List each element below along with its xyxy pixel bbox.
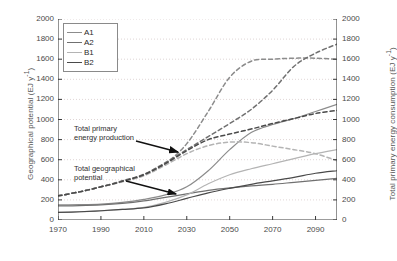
y-axis-left-tick-label: 200 (24, 195, 54, 204)
y-axis-right-tick-label: 400 (342, 175, 372, 184)
legend[interactable]: A1A2B1B2 (63, 23, 118, 72)
legend-label-a1: A1 (84, 29, 94, 37)
y-axis-left-tick-label: 0 (24, 215, 54, 224)
legend-label-b1: B1 (84, 49, 94, 57)
annotation-total-primary-energy-production: Total primary energy production (74, 124, 134, 142)
x-axis-tick-label: 2050 (213, 225, 247, 234)
legend-item-a1[interactable]: A1 (67, 28, 113, 37)
legend-swatch-b1 (67, 52, 82, 53)
y-axis-right-tick-label: 1800 (342, 34, 372, 43)
y-axis-right-tick-label: 1200 (342, 94, 372, 103)
series-line-a2-geographical-potential (58, 178, 337, 206)
y-axis-left-tick-label: 1600 (24, 54, 54, 63)
y-axis-left-tick-label: 800 (24, 135, 54, 144)
y-axis-left-tick-label: 1800 (24, 34, 54, 43)
x-axis-tick-label: 1970 (41, 225, 75, 234)
y-axis-right-exponent: -1 (385, 50, 392, 56)
y-axis-right-tick-label: 1400 (342, 74, 372, 83)
x-axis-tick-label: 2010 (127, 225, 161, 234)
y-axis-left-tick-label: 600 (24, 155, 54, 164)
legend-swatch-a1 (67, 32, 82, 33)
y-axis-left-tick-label: 1200 (24, 94, 54, 103)
y-axis-left-tick-label: 2000 (24, 14, 54, 23)
y-axis-right-tick-label: 1000 (342, 115, 372, 124)
legend-item-b2[interactable]: B2 (67, 58, 113, 67)
legend-swatch-b2 (67, 62, 82, 63)
y-axis-right-tick-label: 200 (342, 195, 372, 204)
x-axis-tick-label: 1990 (84, 225, 118, 234)
legend-label-b2: B2 (84, 59, 94, 67)
arrow-total-geographical-potential (126, 181, 176, 194)
legend-item-a2[interactable]: A2 (67, 38, 113, 47)
y-axis-title-right: Total primary energy consumption (EJ y-1… (385, 29, 397, 219)
x-axis-tick-label: 2030 (170, 225, 204, 234)
x-axis-tick-label: 2070 (256, 225, 290, 234)
arrow-total-primary-energy-production (136, 141, 178, 152)
legend-swatch-a2 (67, 42, 82, 43)
y-axis-right-tick-label: 0 (342, 215, 372, 224)
y-axis-left-tick-label: 1400 (24, 74, 54, 83)
y-axis-right-tick-label: 2000 (342, 14, 372, 23)
legend-item-b1[interactable]: B1 (67, 48, 113, 57)
y-axis-right-tick-label: 1600 (342, 54, 372, 63)
x-axis-tick-label: 2090 (299, 225, 333, 234)
annotation-total-geographical-potential: Total geographical potential (74, 164, 135, 182)
y-axis-left-tick-label: 400 (24, 175, 54, 184)
cropped-caption-strip (0, 0, 396, 8)
y-axis-left-tick-label: 1000 (24, 115, 54, 124)
legend-label-a2: A2 (84, 39, 94, 47)
y-axis-right-tick-label: 800 (342, 135, 372, 144)
y-axis-right-tick-label: 600 (342, 155, 372, 164)
